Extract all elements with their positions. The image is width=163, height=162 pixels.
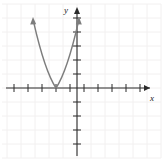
- grid-lines: [2, 4, 161, 158]
- y-axis-arrowhead: [74, 7, 80, 14]
- coordinate-plane-figure: y x: [0, 0, 163, 162]
- x-axis-label: x: [149, 93, 154, 103]
- parabola-curve: [30, 17, 82, 88]
- y-axis-label: y: [63, 5, 68, 15]
- graph-svg: y x: [0, 0, 163, 162]
